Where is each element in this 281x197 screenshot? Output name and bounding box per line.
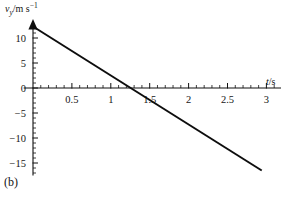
x-tick-label: 0.5: [65, 94, 78, 105]
y-tick-label: −10: [10, 133, 26, 144]
x-axis-title: t/s: [266, 76, 275, 87]
y-axis-title: vy/m s−1: [5, 1, 38, 17]
y-tick-label: −5: [15, 108, 26, 119]
tick-labels-group: 0.511.522.531050−5−10−15: [10, 33, 269, 169]
x-tick-label: 1: [108, 94, 113, 105]
y-axis-unit-exponent: −1: [30, 1, 38, 10]
y-tick-label: −15: [10, 158, 26, 169]
x-axis-unit: /s: [269, 76, 276, 87]
x-tick-label: 2: [186, 94, 191, 105]
y-tick-label: 5: [21, 58, 26, 69]
y-axis-unit: /m s: [13, 3, 30, 14]
y-tick-label: 10: [16, 33, 27, 44]
x-tick-label: 2.5: [221, 94, 234, 105]
y-tick-label: 0: [21, 83, 26, 94]
velocity-time-graph-figure: 0.511.522.531050−5−10−15 vy/m s−1 t/s (b…: [0, 0, 281, 197]
x-tick-label: 3: [264, 94, 269, 105]
panel-label: (b): [4, 175, 18, 190]
plot-canvas: 0.511.522.531050−5−10−15: [0, 0, 281, 197]
